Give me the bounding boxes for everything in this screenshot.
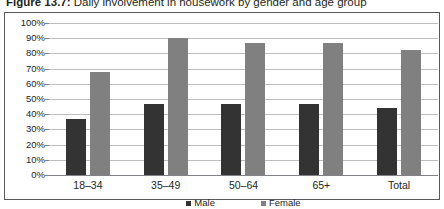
chart-legend: MaleFemale xyxy=(49,197,438,209)
gridline xyxy=(49,175,438,176)
plot-area xyxy=(49,23,438,175)
chart-frame: 100%90%80%70%60%50%40%30%20%10%0% 18–343… xyxy=(4,12,440,200)
bar-female[interactable] xyxy=(168,38,188,175)
bar-male[interactable] xyxy=(66,119,86,175)
bar-female[interactable] xyxy=(90,72,110,175)
y-axis-tick-label: 40% xyxy=(5,109,45,119)
legend-swatch-male-icon xyxy=(186,201,191,206)
y-axis-tick-label: 30% xyxy=(5,124,45,134)
figure-container: Figure 13.7: Daily involvement in housew… xyxy=(0,0,444,209)
figure-number: Figure 13.7: xyxy=(6,0,71,8)
legend-label: Male xyxy=(194,197,215,209)
bar-male[interactable] xyxy=(221,104,241,175)
bar-group xyxy=(205,23,283,175)
bar-group xyxy=(282,23,360,175)
y-axis-tick-label: 10% xyxy=(5,155,45,165)
bar-group xyxy=(127,23,205,175)
y-axis-tick-label: 90% xyxy=(5,33,45,43)
bar-female[interactable] xyxy=(401,50,421,175)
bar-male[interactable] xyxy=(299,104,319,175)
y-axis-tick-label: 20% xyxy=(5,140,45,150)
y-axis-tick-label: 50% xyxy=(5,94,45,104)
y-axis-tick-label: 60% xyxy=(5,79,45,89)
legend-item-male[interactable]: Male xyxy=(186,197,215,209)
y-axis-tick-label: 70% xyxy=(5,64,45,74)
legend-swatch-female-icon xyxy=(261,201,266,206)
bar-male[interactable] xyxy=(377,108,397,175)
y-axis-tick-label: 0% xyxy=(5,170,45,180)
y-axis: 100%90%80%70%60%50%40%30%20%10%0% xyxy=(5,23,45,175)
figure-caption-text: Daily involvement in housework by gender… xyxy=(71,0,367,8)
y-axis-tick-label: 80% xyxy=(5,48,45,58)
x-axis-labels: 18–3435–4950–6465+Total xyxy=(49,179,438,192)
bar-female[interactable] xyxy=(245,43,265,175)
bar-male[interactable] xyxy=(144,104,164,175)
figure-caption: Figure 13.7: Daily involvement in housew… xyxy=(6,0,442,9)
x-axis-category-label: 50–64 xyxy=(205,179,283,192)
legend-item-female[interactable]: Female xyxy=(261,197,301,209)
y-axis-tick-label: 100% xyxy=(5,18,45,28)
x-axis-category-label: 18–34 xyxy=(49,179,127,192)
legend-label: Female xyxy=(269,197,301,209)
x-axis-category-label: Total xyxy=(360,179,438,192)
bar-groups xyxy=(49,23,438,175)
bar-group xyxy=(360,23,438,175)
x-axis-category-label: 35–49 xyxy=(127,179,205,192)
x-axis-category-label: 65+ xyxy=(282,179,360,192)
bar-group xyxy=(49,23,127,175)
bar-female[interactable] xyxy=(323,43,343,175)
